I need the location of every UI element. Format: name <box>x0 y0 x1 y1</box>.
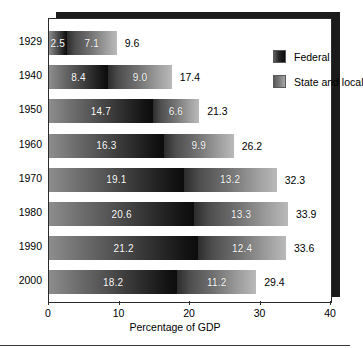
bar-total-label: 32.3 <box>285 174 305 186</box>
bar-segment-federal: 8.4 <box>49 65 108 89</box>
x-tick-mark <box>48 301 49 305</box>
bar-segment-state-and-local: 9.0 <box>108 65 171 89</box>
bar-row: 21.212.4 <box>49 236 286 260</box>
bar-row: 2.57.1 <box>49 31 117 55</box>
x-tick-label-10: 10 <box>113 307 125 319</box>
x-tick-mark <box>330 301 331 305</box>
bar-value-federal: 8.4 <box>71 72 86 83</box>
x-tick-label-20: 20 <box>183 307 195 319</box>
category-label-1990: 1990 <box>0 240 42 252</box>
bar-segment-federal: 19.1 <box>49 168 184 192</box>
bar-total-label: 26.2 <box>242 140 262 152</box>
bar-row: 18.211.2 <box>49 270 256 294</box>
x-tick-mark <box>119 301 120 305</box>
bar-segment-state-and-local: 13.3 <box>194 202 288 226</box>
bar-value-state-and-local: 12.4 <box>232 243 252 254</box>
legend-label-federal: Federal <box>294 51 330 63</box>
bar-row: 19.113.2 <box>49 168 277 192</box>
bar-value-federal: 14.7 <box>91 106 111 117</box>
bar-value-state-and-local: 9.9 <box>192 140 207 151</box>
legend-item-federal: Federal <box>273 50 363 63</box>
bar-total-label: 17.4 <box>180 71 200 83</box>
bar-segment-federal: 20.6 <box>49 202 194 226</box>
x-tick-label-0: 0 <box>45 307 51 319</box>
bar-segment-federal: 18.2 <box>49 270 177 294</box>
legend-item-state-and-local: State and local <box>273 75 363 88</box>
chart-legend: Federal State and local <box>273 50 363 100</box>
legend-swatch-federal <box>273 50 286 63</box>
bar-total-label: 9.6 <box>125 37 140 49</box>
bar-total-label: 33.9 <box>296 208 316 220</box>
bar-segment-state-and-local: 12.4 <box>198 236 285 260</box>
bar-segment-federal: 21.2 <box>49 236 198 260</box>
bar-value-state-and-local: 11.2 <box>207 277 227 288</box>
bar-row: 20.613.3 <box>49 202 288 226</box>
bar-segment-state-and-local: 13.2 <box>184 168 277 192</box>
bar-row: 8.49.0 <box>49 65 172 89</box>
bar-segment-state-and-local: 11.2 <box>177 270 256 294</box>
bar-value-federal: 19.1 <box>106 174 126 185</box>
bar-value-federal: 18.2 <box>103 277 123 288</box>
bar-segment-federal: 2.5 <box>49 31 67 55</box>
bar-total-label: 21.3 <box>207 105 227 117</box>
x-tick-label-30: 30 <box>254 307 266 319</box>
bar-value-state-and-local: 13.2 <box>220 174 240 185</box>
category-label-1960: 1960 <box>0 138 42 150</box>
bar-segment-state-and-local: 9.9 <box>164 134 234 158</box>
x-axis-title: Percentage of GDP <box>0 321 350 333</box>
bar-segment-state-and-local: 7.1 <box>67 31 117 55</box>
bar-value-state-and-local: 6.6 <box>169 106 184 117</box>
bar-value-state-and-local: 7.1 <box>84 38 99 49</box>
category-label-2000: 2000 <box>0 274 42 286</box>
bar-value-state-and-local: 13.3 <box>231 209 251 220</box>
bar-row: 14.76.6 <box>49 99 199 123</box>
bar-total-label: 29.4 <box>264 276 284 288</box>
category-label-1970: 1970 <box>0 172 42 184</box>
bar-value-state-and-local: 9.0 <box>133 72 148 83</box>
page-rule <box>0 345 350 346</box>
legend-swatch-state-and-local <box>273 75 286 88</box>
x-tick-mark <box>189 301 190 305</box>
bar-segment-federal: 16.3 <box>49 134 164 158</box>
bar-value-federal: 16.3 <box>96 140 116 151</box>
bar-value-federal: 21.2 <box>114 243 134 254</box>
bar-value-federal: 2.5 <box>51 38 66 49</box>
category-label-1940: 1940 <box>0 69 42 81</box>
category-label-1929: 1929 <box>0 35 42 47</box>
bar-row: 16.39.9 <box>49 134 234 158</box>
plot-frame: 2.57.19.68.49.017.414.76.621.316.39.926.… <box>48 18 332 303</box>
x-tick-mark <box>260 301 261 305</box>
category-label-1950: 1950 <box>0 103 42 115</box>
x-tick-label-40: 40 <box>324 307 336 319</box>
bar-total-label: 33.6 <box>294 242 314 254</box>
legend-label-state-and-local: State and local <box>294 76 363 88</box>
bar-segment-federal: 14.7 <box>49 99 153 123</box>
bar-segment-state-and-local: 6.6 <box>153 99 200 123</box>
category-label-1980: 1980 <box>0 206 42 218</box>
bar-value-federal: 20.6 <box>111 209 131 220</box>
